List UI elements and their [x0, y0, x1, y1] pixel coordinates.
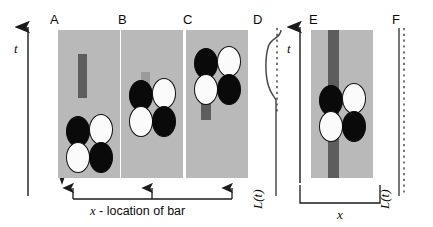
panel-f-trace-axis-label: L(t): [378, 190, 391, 210]
figure-root: A B C D E F t t x L(t) L(t) x - location…: [0, 0, 433, 227]
panel-c-cell-top-right: [217, 46, 241, 77]
panel-b-cell-top-right: [152, 78, 176, 109]
panel-f-trace: [399, 28, 404, 196]
panel-e-cell-top-right: [342, 83, 366, 114]
panel-e-field: [311, 30, 373, 178]
panel-letter-d: D: [253, 13, 262, 26]
panel-d-trace: [266, 28, 281, 196]
bracket-caption-rest: - location of bar: [96, 204, 186, 218]
panel-d-trace-axis-label: L(t): [251, 190, 264, 210]
panel-c-cell-bottom-right: [217, 74, 241, 105]
panel-letter-e: E: [309, 13, 318, 26]
panel-a-field: [58, 30, 120, 178]
time-axis-label-left: t: [14, 42, 18, 55]
panel-b-cell-bottom-left: [129, 106, 153, 137]
panel-a-cell-bottom-left: [66, 142, 90, 173]
panel-b-field: [121, 30, 183, 178]
panel-letter-b: B: [118, 13, 127, 26]
panel-c-cell-bottom-left: [194, 74, 218, 105]
panel-b-cell-bottom-right: [152, 106, 176, 137]
bracket-x-location-of-bar: [73, 188, 232, 199]
panel-e-cell-bottom-left: [319, 111, 343, 142]
panel-e-cell-bottom-right: [342, 111, 366, 142]
panel-letter-f: F: [392, 13, 400, 26]
panel-d-curve: [266, 30, 281, 196]
panel-a-cell-bottom-right: [89, 142, 113, 173]
bracket-caption: x - location of bar: [90, 205, 185, 218]
space-axis-label-panel-e: x: [337, 208, 343, 221]
panel-e-x-axis: [300, 185, 380, 203]
panel-letter-c: C: [183, 13, 192, 26]
panel-c-field: [186, 30, 248, 178]
panel-letter-a: A: [50, 13, 59, 26]
time-axis-label-panel-e: t: [287, 42, 291, 55]
panel-a-bar: [78, 54, 87, 98]
panel-a-cell-top-right: [89, 114, 113, 145]
